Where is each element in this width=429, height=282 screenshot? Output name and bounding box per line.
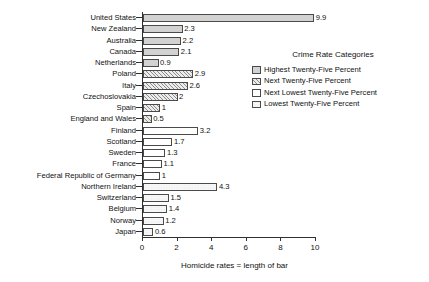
bar-value-label: 1.2 — [165, 216, 176, 226]
bar — [143, 149, 165, 157]
bar — [143, 183, 217, 191]
y-axis-tick — [136, 85, 142, 86]
legend-entry-label: Highest Twenty-Five Percent — [264, 65, 361, 75]
legend-swatch-hatch — [252, 78, 261, 86]
y-axis-tick — [136, 163, 142, 164]
x-axis-tick-label: 8 — [265, 243, 295, 252]
bar — [143, 48, 179, 56]
bar-row: Sweden1.3 — [0, 147, 429, 158]
bar — [143, 127, 198, 135]
bar-value-label: 2.1 — [181, 47, 192, 57]
legend-entry-label: Next Lowest Twenty-Five Percent — [264, 88, 377, 98]
bar-row: Japan0.6 — [0, 226, 429, 237]
legend-swatch-solid-gray — [252, 66, 261, 74]
bar-value-label: 3.2 — [200, 126, 211, 136]
bar — [143, 172, 160, 180]
x-axis-line — [142, 237, 315, 238]
bar — [143, 93, 178, 101]
bar-row: England and Wales0.5 — [0, 113, 429, 124]
bar-value-label: 1.5 — [170, 193, 181, 203]
bar — [143, 228, 153, 236]
x-axis-tick — [142, 237, 143, 241]
bar — [143, 217, 164, 225]
legend: Crime Rate Categories Highest Twenty-Fiv… — [252, 50, 428, 110]
y-axis-tick — [136, 51, 142, 52]
bar — [143, 25, 183, 33]
legend-title: Crime Rate Categories — [252, 50, 428, 59]
y-axis-tick — [136, 186, 142, 187]
x-axis-tick-label: 4 — [196, 243, 226, 252]
bar — [143, 37, 181, 45]
y-axis-tick — [136, 175, 142, 176]
bar-value-label: 2.6 — [189, 81, 200, 91]
category-label: England and Wales — [0, 113, 136, 124]
bar-row: Norway1.2 — [0, 215, 429, 226]
bar-value-label: 2.2 — [183, 36, 194, 46]
bar — [143, 205, 167, 213]
x-axis-tick-label: 0 — [127, 243, 157, 252]
bar-value-label: 1 — [162, 103, 166, 113]
bar — [143, 115, 152, 123]
category-label: Canada — [0, 46, 136, 57]
bar — [143, 138, 172, 146]
legend-entry-label: Next Twenty-Five Percent — [264, 76, 351, 86]
y-axis-tick — [136, 62, 142, 63]
bar-value-label: 1.4 — [169, 204, 180, 214]
category-label: France — [0, 158, 136, 169]
y-axis-tick — [136, 197, 142, 198]
y-axis-tick — [136, 220, 142, 221]
y-axis-tick — [136, 231, 142, 232]
category-label: Poland — [0, 68, 136, 79]
legend-entries-container: Highest Twenty-Five PercentNext Twenty-F… — [252, 64, 428, 110]
legend-swatch-checker — [252, 101, 261, 109]
x-axis-tick — [177, 237, 178, 241]
category-label: Australia — [0, 35, 136, 46]
bar-value-label: 0.6 — [155, 227, 166, 237]
bar-value-label: 1.3 — [167, 148, 178, 158]
category-label: Spain — [0, 102, 136, 113]
category-label: United States — [0, 12, 136, 23]
x-axis-tick — [246, 237, 247, 241]
category-label: Switzerland — [0, 192, 136, 203]
bar-value-label: 2.3 — [184, 24, 195, 34]
bar-row: Federal Republic of Germany1 — [0, 170, 429, 181]
bar — [143, 14, 314, 22]
bar-value-label: 9.9 — [316, 13, 327, 23]
x-axis-tick — [211, 237, 212, 241]
x-axis-tick — [280, 237, 281, 241]
bar-row: France1.1 — [0, 158, 429, 169]
bar-value-label: 2.9 — [195, 69, 206, 79]
y-axis-tick — [136, 40, 142, 41]
bar — [143, 104, 160, 112]
bar-row: Northern Ireland4.3 — [0, 181, 429, 192]
category-label: Italy — [0, 80, 136, 91]
category-label: Scotland — [0, 136, 136, 147]
y-axis-tick — [136, 73, 142, 74]
bar-value-label: 1.7 — [174, 137, 185, 147]
bar-value-label: 0.5 — [153, 114, 164, 124]
x-axis-tick-label: 10 — [300, 243, 330, 252]
bar — [143, 82, 188, 90]
legend-entry: Next Lowest Twenty-Five Percent — [252, 87, 428, 99]
bar-row: Switzerland1.5 — [0, 192, 429, 203]
bar — [143, 160, 162, 168]
category-label: Norway — [0, 215, 136, 226]
category-label: Finland — [0, 125, 136, 136]
category-label: Belgium — [0, 203, 136, 214]
horizontal-bar-chart: United States9.9New Zealand2.3Australia2… — [0, 0, 429, 282]
x-axis-tick-label: 6 — [231, 243, 261, 252]
y-axis-tick — [136, 107, 142, 108]
y-axis-tick — [136, 208, 142, 209]
legend-entry-label: Lowest Twenty-Five Percent — [264, 99, 359, 109]
legend-entry: Highest Twenty-Five Percent — [252, 64, 428, 76]
legend-entry: Lowest Twenty-Five Percent — [252, 99, 428, 111]
bar-row: Scotland1.7 — [0, 136, 429, 147]
bar-row: New Zealand2.3 — [0, 23, 429, 34]
bar-value-label: 4.3 — [219, 182, 230, 192]
y-axis-tick — [136, 130, 142, 131]
y-axis-tick — [136, 141, 142, 142]
bar — [143, 194, 169, 202]
x-axis-tick — [315, 237, 316, 241]
bar-row: Australia2.2 — [0, 35, 429, 46]
category-label: New Zealand — [0, 23, 136, 34]
